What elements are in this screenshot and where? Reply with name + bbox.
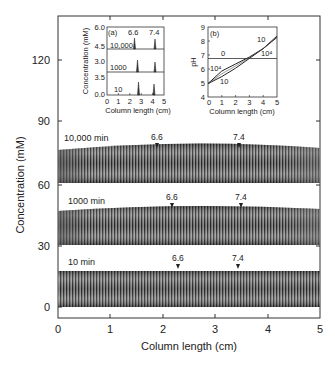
inset-a-x-tick: 0 bbox=[105, 97, 109, 106]
band-label-1000: 1000 min bbox=[68, 196, 105, 206]
inset-a-peak-label: 6.6 bbox=[128, 28, 138, 37]
inset-b-y-tick: 8 bbox=[201, 37, 205, 46]
inset-a-peak-label: 7.4 bbox=[149, 28, 159, 37]
x-tick: 1 bbox=[107, 323, 113, 335]
inset-b-y-tick: 9 bbox=[201, 23, 205, 32]
main-x-axis: 0 1 2 3 4 5 Column length (cm) bbox=[55, 314, 323, 352]
inset-a-y-tick: 0.0 bbox=[95, 90, 105, 99]
inset-a-x-tick: 1 bbox=[116, 97, 120, 106]
inset-b-y-label: pH bbox=[189, 57, 198, 67]
y-tick: 30 bbox=[38, 240, 50, 252]
x-tick: 4 bbox=[265, 323, 271, 335]
band-1000-min bbox=[58, 206, 320, 245]
marker-label-7-4: 7.4 bbox=[235, 192, 247, 202]
band-label-10: 10 min bbox=[68, 257, 95, 267]
inset-a-y-tick: 3.5 bbox=[95, 73, 105, 82]
inset-b-x-tick: 2 bbox=[234, 98, 238, 107]
inset-b-curve-label: 10 bbox=[257, 35, 265, 44]
marker-label-7-4: 7.4 bbox=[232, 253, 244, 263]
main-y-axis: 120 90 60 30 0 Concentration (mM) bbox=[14, 54, 62, 313]
marker-label-7-4: 7.4 bbox=[233, 132, 245, 142]
inset-b-y-tick: 6 bbox=[201, 65, 205, 74]
inset-a-x-tick: 3 bbox=[139, 97, 143, 106]
inset-a-y-tick: 4.5 bbox=[95, 42, 105, 51]
x-axis-label: Column length (cm) bbox=[141, 340, 237, 352]
marker-arrow-icon bbox=[176, 264, 180, 269]
inset-b-curve-label: 10⁴ bbox=[210, 64, 222, 73]
inset-b-x-tick: 1 bbox=[220, 98, 224, 107]
inset-a-x-tick: 2 bbox=[128, 97, 132, 106]
y-axis-label: Concentration (mM) bbox=[14, 136, 26, 233]
inset-b-curve-label: 10⁴ bbox=[261, 49, 273, 58]
inset-b-y-tick: 7 bbox=[201, 51, 205, 60]
inset-a-y-label: Concentration (mM) bbox=[81, 27, 90, 94]
inset-a-series-label: 10 bbox=[114, 85, 122, 94]
marker-arrow-icon bbox=[236, 264, 240, 269]
inset-a-x-tick: 5 bbox=[162, 97, 166, 106]
inset-a-x-label: Column length (cm) bbox=[105, 106, 171, 115]
inset-a-y-tick: 6.0 bbox=[95, 23, 105, 32]
inset-a-series-label: 10,000 bbox=[110, 41, 133, 50]
marker-label-6-6: 6.6 bbox=[166, 192, 178, 202]
x-tick: 5 bbox=[317, 323, 323, 335]
inset-b: (b) 10 10⁴ 0 10⁴ 10 9 8 7 6 5 4 pH bbox=[189, 23, 279, 116]
inset-b-x-tick: 0 bbox=[207, 98, 211, 107]
inset-a-y-tick: 3.0 bbox=[95, 57, 105, 66]
y-tick: 120 bbox=[32, 54, 50, 66]
inset-b-y-tick: 4 bbox=[201, 93, 205, 102]
y-tick: 60 bbox=[38, 179, 50, 191]
marker-label-6-6: 6.6 bbox=[172, 253, 184, 263]
x-tick: 3 bbox=[212, 323, 218, 335]
x-tick: 2 bbox=[160, 323, 166, 335]
marker-label-6-6: 6.6 bbox=[151, 132, 163, 142]
inset-b-x-tick: 3 bbox=[247, 98, 251, 107]
band-10-min bbox=[58, 271, 320, 307]
y-tick: 90 bbox=[38, 115, 50, 127]
band-10000-min bbox=[58, 143, 320, 183]
y-tick: 0 bbox=[44, 301, 50, 313]
x-tick: 0 bbox=[55, 323, 61, 335]
inset-a-panel-label: (a) bbox=[108, 28, 118, 37]
inset-b-panel-label: (b) bbox=[210, 29, 220, 38]
inset-a-series-label: 1000 bbox=[110, 63, 127, 72]
inset-a: (a) 6.6 7.4 10,000 1000 10 6.0 4.5 3.0 3… bbox=[81, 23, 171, 115]
inset-b-curve-label: 10 bbox=[220, 77, 228, 86]
inset-b-x-tick: 4 bbox=[261, 98, 265, 107]
inset-b-curve-label: 0 bbox=[221, 49, 225, 58]
inset-b-x-label: Column length (cm) bbox=[209, 107, 275, 116]
inset-b-x-tick: 5 bbox=[275, 98, 279, 107]
inset-b-y-tick: 5 bbox=[201, 79, 205, 88]
inset-a-x-tick: 4 bbox=[151, 97, 155, 106]
band-label-10000: 10,000 min bbox=[64, 133, 109, 143]
figure: 10,000 min 1000 min 10 min 6.6 7.4 6.6 7… bbox=[0, 0, 335, 365]
